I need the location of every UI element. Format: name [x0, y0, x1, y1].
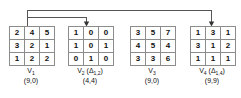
matrix-row: 0 1 0	[69, 53, 114, 66]
matrix-row: 1 1 1	[191, 53, 236, 66]
matrix-row: 1 3 1	[191, 27, 236, 40]
caption-subscript: 2	[82, 70, 85, 76]
matrix-row: 3 1 2	[191, 40, 236, 53]
matrix-cell: 4	[161, 40, 176, 53]
caption-delta-icon: (Δ	[87, 67, 94, 74]
matrix-cell: 2	[221, 40, 236, 53]
matrix-cell: 1	[69, 40, 84, 53]
matrix-cell: 3	[146, 53, 161, 66]
matrix-row: 3 3 6	[131, 53, 176, 66]
matrix-cell: 4	[25, 27, 40, 40]
matrix-cell: 3	[131, 27, 146, 40]
matrix-row: 1 0 0	[69, 27, 114, 40]
caption-v4: V4 (Δ1,4) (9,9)	[166, 66, 241, 86]
matrix-cell: 2	[25, 53, 40, 66]
matrix-cell: 0	[84, 27, 99, 40]
matrix-v4: 1 3 1 3 1 2 1 1 1	[190, 26, 236, 66]
matrix-cell: 7	[161, 27, 176, 40]
matrix-row: 2 4 5	[10, 27, 55, 40]
caption-delta-subscript: 1,4	[216, 70, 223, 76]
matrix-cell: 0	[84, 40, 99, 53]
matrix-cell: 3	[206, 27, 221, 40]
matrix-cell: 4	[131, 40, 146, 53]
matrix-cell: 1	[40, 40, 55, 53]
matrix-grid-v4: 1 3 1 3 1 2 1 1 1	[190, 26, 236, 66]
matrix-cell: 5	[146, 27, 161, 40]
matrix-row: 3 5 7	[131, 27, 176, 40]
matrix-cell: 0	[69, 53, 84, 66]
caption-delta-icon: (Δ	[209, 67, 216, 74]
matrix-row: 4 5 4	[131, 40, 176, 53]
matrix-cell: 2	[25, 40, 40, 53]
matrix-cell: 1	[206, 53, 221, 66]
matrix-row: 1 2 2	[10, 53, 55, 66]
matrix-v3: 3 5 7 4 5 4 3 3 6	[130, 26, 176, 66]
matrix-grid-v1: 2 4 5 3 2 1 1 2 2	[9, 26, 55, 66]
matrix-v1: 2 4 5 3 2 1 1 2 2	[9, 26, 55, 66]
matrix-cell: 1	[84, 53, 99, 66]
matrix-cell: 1	[10, 53, 25, 66]
matrix-row: 3 2 1	[10, 40, 55, 53]
matrix-v2: 1 0 0 1 0 1 0 1 0	[68, 26, 114, 66]
matrix-cell: 3	[191, 40, 206, 53]
matrix-row: 1 0 1	[69, 40, 114, 53]
caption-subscript: 4	[204, 70, 207, 76]
caption-pair-v4: (9,9)	[166, 76, 241, 86]
matrix-diagram: 2 4 5 3 2 1 1 2 2 1	[0, 0, 241, 98]
matrix-cell: 0	[99, 27, 114, 40]
matrix-cell: 1	[191, 53, 206, 66]
caption-subscript: 3	[153, 70, 156, 76]
matrix-cell: 3	[131, 53, 146, 66]
matrix-cell: 1	[69, 27, 84, 40]
matrix-cell: 0	[99, 53, 114, 66]
matrix-cell: 1	[206, 40, 221, 53]
matrix-grid-v2: 1 0 0 1 0 1 0 1 0	[68, 26, 114, 66]
connector-v1-to-v4	[28, 11, 212, 27]
caption-name-v4: V4 (Δ1,4)	[166, 66, 241, 76]
matrix-cell: 1	[191, 27, 206, 40]
matrix-cell: 1	[99, 40, 114, 53]
matrix-cell: 5	[40, 27, 55, 40]
matrix-cell: 2	[10, 27, 25, 40]
matrix-cell: 1	[221, 53, 236, 66]
connector-v1-to-v2	[28, 18, 87, 27]
caption-delta-subscript: 1,2	[94, 70, 101, 76]
matrix-cell: 2	[40, 53, 55, 66]
matrix-cell: 6	[161, 53, 176, 66]
matrix-cell: 1	[221, 27, 236, 40]
matrix-grid-v3: 3 5 7 4 5 4 3 3 6	[130, 26, 176, 66]
caption-subscript: 1	[32, 70, 35, 76]
matrix-cell: 3	[10, 40, 25, 53]
matrix-cell: 5	[146, 40, 161, 53]
